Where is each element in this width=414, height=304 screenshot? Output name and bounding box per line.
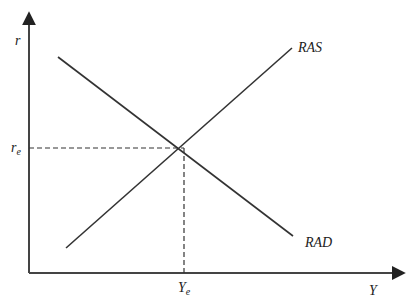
ye-label: Ye [178, 280, 191, 297]
re-label-sub: e [16, 146, 21, 157]
ras-rad-diagram: r Y RAS RAD re Ye [0, 0, 414, 304]
rad-curve [58, 57, 293, 236]
rad-label: RAD [304, 235, 332, 250]
x-axis-label: Y [369, 283, 379, 298]
re-label: re [11, 140, 21, 157]
ras-curve [66, 48, 292, 248]
ras-label: RAS [297, 40, 322, 55]
y-axis-label: r [15, 33, 21, 48]
ye-label-sub: e [186, 286, 191, 297]
